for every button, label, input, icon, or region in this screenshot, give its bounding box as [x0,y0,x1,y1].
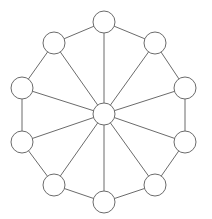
spoke-edge [114,91,174,110]
spoke-edge [32,91,93,110]
spoke-edge [60,123,97,176]
outer-node[interactable] [174,131,196,153]
outer-node[interactable] [11,131,33,153]
rim-edge [64,26,94,38]
rim-edge [161,52,179,79]
spoke-edge [60,52,97,105]
outer-node[interactable] [174,77,196,99]
outer-node[interactable] [144,32,166,54]
spoke-edge [110,52,148,105]
rim-edge [114,26,145,39]
rim-edge [161,151,178,176]
outer-node[interactable] [43,32,65,54]
spoke-edge [32,118,93,139]
rim-edge [28,52,47,79]
hub-node[interactable] [93,103,115,125]
outer-node[interactable] [11,77,33,99]
outer-node[interactable] [43,174,65,196]
rim-edge [64,189,93,199]
spoke-edge [114,118,174,139]
rim-edge [114,188,144,198]
rim-edge [29,151,48,176]
outer-node[interactable] [144,174,166,196]
outer-node[interactable] [93,11,115,33]
outer-node[interactable] [93,191,115,213]
spoke-edge [110,123,148,176]
wheel-graph-diagram [0,0,212,219]
wheel-graph-canvas [0,0,212,219]
